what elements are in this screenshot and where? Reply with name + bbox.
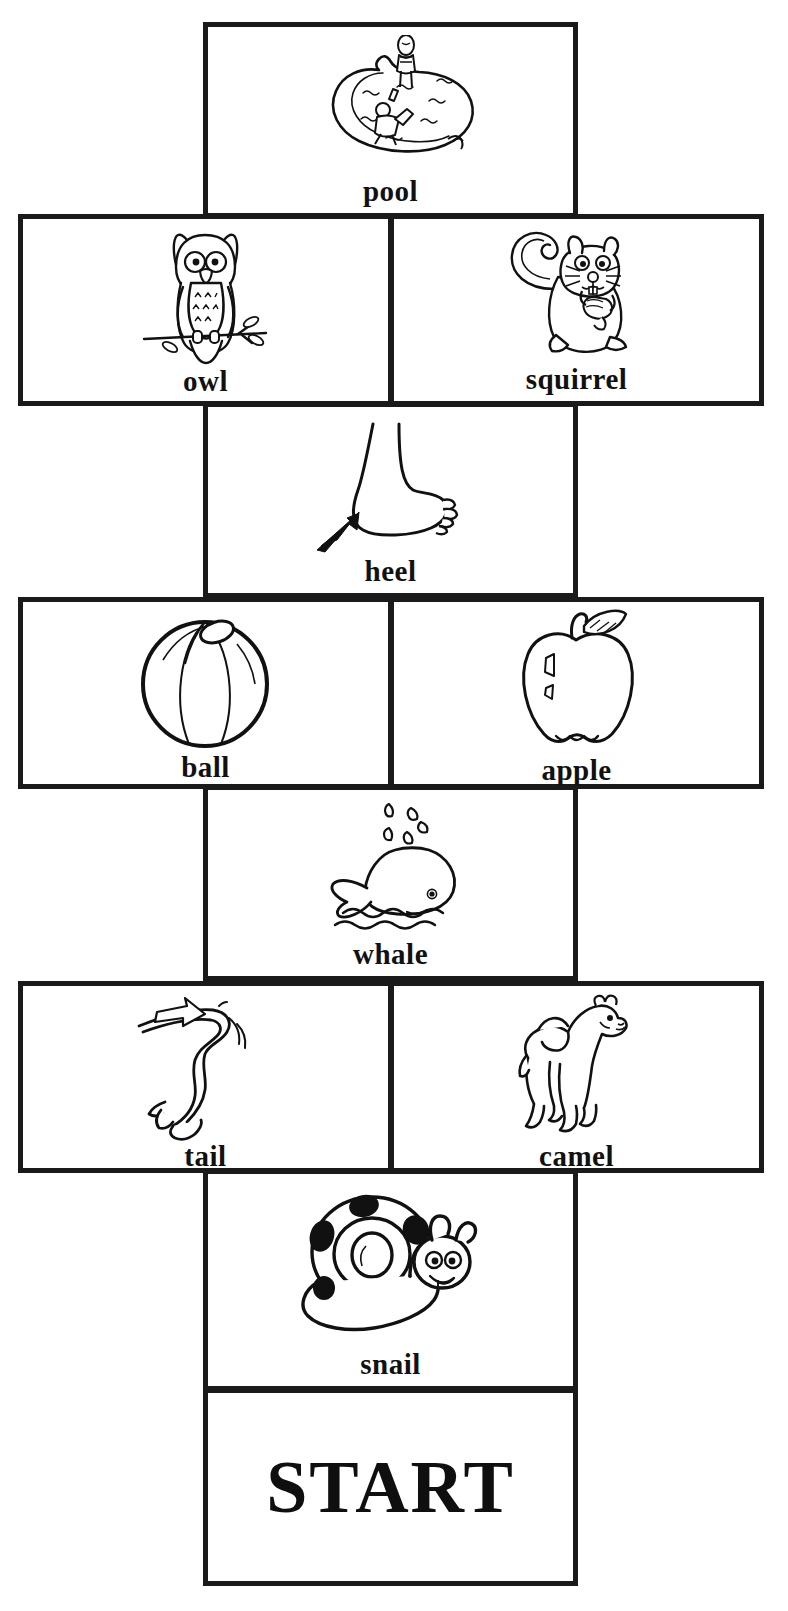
- path-cell-whale[interactable]: whale: [203, 785, 578, 981]
- path-cell-label: heel: [365, 557, 417, 593]
- start-label: START: [266, 1450, 515, 1524]
- path-cell-start[interactable]: START: [203, 1388, 578, 1586]
- pool-icon: [208, 27, 573, 177]
- game-board: pool: [0, 0, 788, 1611]
- path-cell-owl[interactable]: owl: [18, 214, 393, 406]
- snail-icon: [208, 1174, 573, 1350]
- path-cell-pool[interactable]: pool: [203, 22, 578, 218]
- path-cell-snail[interactable]: snail: [203, 1169, 578, 1391]
- path-cell-camel[interactable]: camel: [389, 981, 764, 1173]
- apple-icon: [394, 602, 759, 756]
- path-cell-apple[interactable]: apple: [389, 597, 764, 789]
- tail-icon: [23, 986, 388, 1142]
- path-cell-label: snail: [360, 1350, 421, 1386]
- squirrel-icon: [394, 219, 759, 365]
- whale-icon: [208, 790, 573, 940]
- owl-icon: [23, 219, 388, 367]
- path-cell-tail[interactable]: tail: [18, 981, 393, 1173]
- path-cell-ball[interactable]: ball: [18, 597, 393, 789]
- path-cell-heel[interactable]: heel: [203, 402, 578, 598]
- ball-icon: [23, 602, 388, 753]
- path-cell-label: pool: [363, 177, 418, 213]
- heel-icon: [208, 407, 573, 557]
- path-cell-label: whale: [353, 940, 428, 976]
- path-cell-label: squirrel: [526, 365, 628, 401]
- path-cell-label: owl: [183, 367, 228, 403]
- path-cell-label: ball: [181, 753, 230, 789]
- camel-icon: [394, 986, 759, 1142]
- path-cell-squirrel[interactable]: squirrel: [389, 214, 764, 406]
